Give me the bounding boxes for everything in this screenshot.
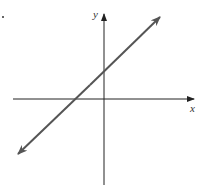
y-axis-label: y (92, 8, 98, 20)
line-upper (90, 17, 160, 85)
line-lower (18, 85, 90, 154)
x-axis-label: x (189, 102, 195, 114)
bullet-dot (2, 16, 4, 18)
coordinate-plane: x y (0, 0, 205, 196)
